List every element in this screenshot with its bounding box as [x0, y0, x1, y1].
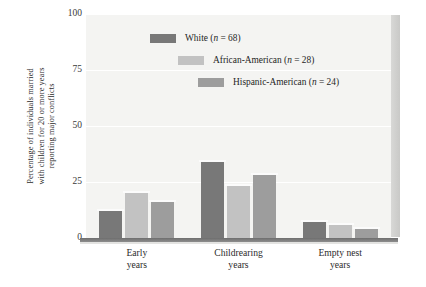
bar	[99, 211, 122, 238]
legend-swatch	[198, 78, 224, 87]
legend-label: Hispanic-American (n = 24)	[233, 77, 339, 87]
bar	[151, 202, 174, 238]
legend-label: African-American (n = 28)	[213, 55, 314, 65]
bar	[253, 175, 276, 238]
bar	[355, 229, 378, 238]
y-axis-title-line-2: with children for 20 or more years	[37, 67, 47, 184]
legend-swatch	[178, 56, 204, 65]
y-tick-label-25: 25	[56, 176, 82, 186]
x-axis-label-line: years	[289, 259, 391, 271]
legend-item: White (n = 68)	[150, 28, 400, 48]
y-tick-label-50: 50	[56, 120, 82, 130]
bar	[227, 186, 250, 238]
y-tick-label-0: 0	[56, 232, 82, 242]
x-axis-label: Earlyyears	[86, 247, 188, 270]
bar	[201, 162, 224, 238]
chart-legend: White (n = 68)African-American (n = 28)H…	[150, 28, 400, 94]
x-axis-label-line: years	[188, 259, 290, 271]
y-tick-label-100: 100	[56, 8, 82, 18]
bar	[329, 225, 352, 238]
y-tick-label-75: 75	[56, 64, 82, 74]
x-axis-label-line: years	[86, 259, 188, 271]
x-axis-label-line: Empty nest	[289, 247, 391, 259]
x-axis-label: Empty nestyears	[289, 247, 391, 270]
legend-label: White (n = 68)	[185, 33, 241, 43]
x-axis-label-line: Childrearing	[188, 247, 290, 259]
x-axis-label-line: Early	[86, 247, 188, 259]
axis-baseline-edge	[80, 242, 398, 244]
x-axis-labels: EarlyyearsChildrearingyearsEmpty nestyea…	[86, 247, 391, 281]
legend-swatch	[150, 34, 176, 43]
bar-chart-figure: Percentage of individuals married with c…	[0, 0, 426, 287]
y-axis-ticks: 1007550250	[52, 14, 82, 238]
legend-item: African-American (n = 28)	[178, 50, 400, 70]
x-axis-label: Childrearingyears	[188, 247, 290, 270]
bar	[125, 193, 148, 238]
bar	[303, 222, 326, 238]
y-axis-title-line-1: Percentage of individuals married	[26, 68, 36, 184]
legend-item: Hispanic-American (n = 24)	[198, 72, 400, 92]
